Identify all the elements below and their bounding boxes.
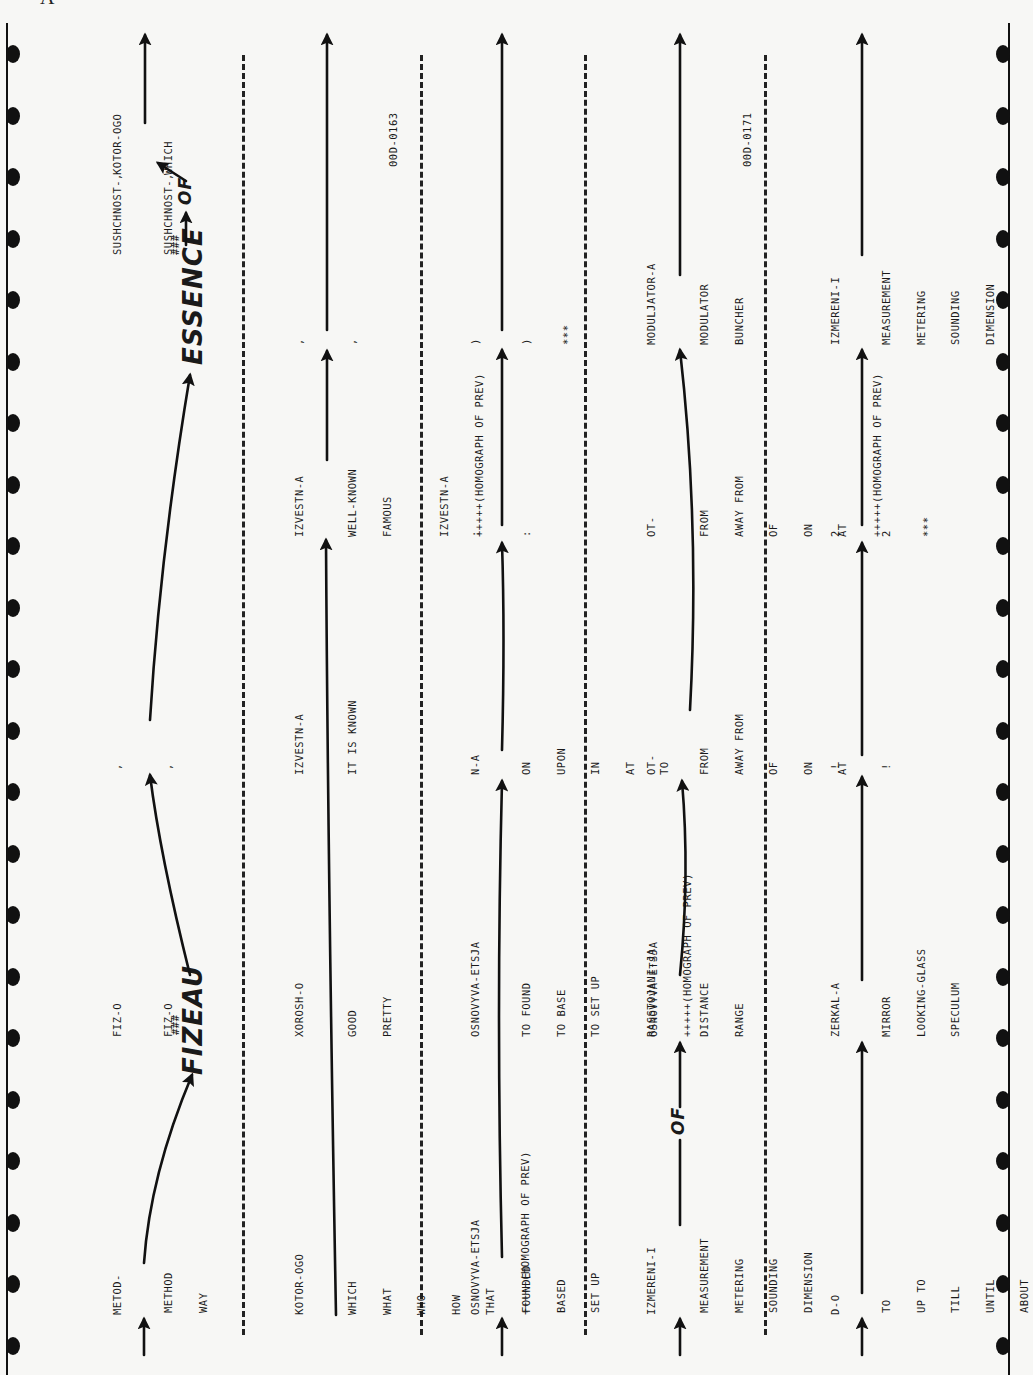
arrow-icon — [326, 540, 336, 1315]
arrow-icon — [502, 543, 504, 750]
arrow-icon — [150, 375, 190, 720]
arrow-icon — [680, 781, 686, 975]
arrow-icon — [158, 163, 186, 181]
arrow-icon — [150, 775, 190, 975]
arrow-icon — [144, 1075, 192, 1263]
arrow-icon — [499, 781, 502, 1257]
arrow-icon — [680, 350, 693, 710]
